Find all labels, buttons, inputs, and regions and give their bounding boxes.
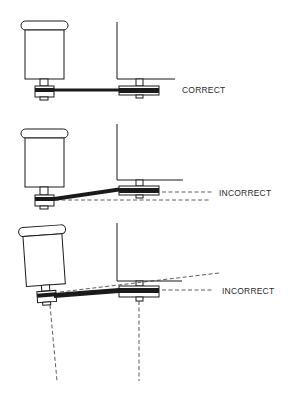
panel-correct: CORRECT <box>21 21 225 100</box>
mounting-plate <box>117 22 175 79</box>
driven-pulley <box>119 79 159 98</box>
motor-body <box>25 138 64 187</box>
mounting-plate <box>117 124 183 180</box>
motor-pulley <box>35 86 54 100</box>
motor-shaft <box>41 285 49 292</box>
mounting-plate <box>117 223 182 281</box>
belt <box>54 288 119 298</box>
belt <box>54 188 119 202</box>
motor-shaft <box>40 187 48 195</box>
motor <box>21 21 68 86</box>
motor <box>21 129 68 195</box>
motor-shaft-axis <box>50 305 57 381</box>
panel-incorrect-tilted: INCORRECT <box>18 223 274 381</box>
panel-incorrect-offset: INCORRECT <box>21 124 271 209</box>
motor-cap <box>21 21 68 30</box>
label-correct: CORRECT <box>182 85 225 95</box>
belt-alignment-diagram: CORRECT INCORRECT <box>0 0 295 395</box>
motor-body <box>23 234 65 287</box>
motor-body <box>25 30 64 79</box>
motor-cap <box>21 129 68 138</box>
motor-pulley <box>35 195 54 209</box>
label-incorrect-1: INCORRECT <box>219 188 271 198</box>
belt <box>54 89 119 92</box>
driven-pulley <box>119 180 159 198</box>
motor-shaft <box>40 79 48 86</box>
label-incorrect-2: INCORRECT <box>222 286 274 296</box>
